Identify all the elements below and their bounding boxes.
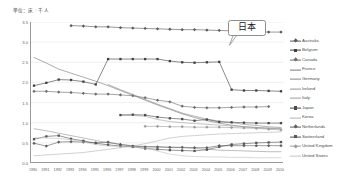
legend-marker-icon	[290, 74, 301, 84]
x-tick-label: 2010	[276, 168, 284, 172]
legend-item-netherlands[interactable]: Netherlands	[290, 122, 358, 132]
legend-marker-icon	[290, 151, 301, 161]
series-switzerland	[33, 134, 282, 152]
x-tick-label: 2006	[226, 168, 234, 172]
x-tick-label: 2009	[264, 168, 272, 172]
legend-marker-icon	[290, 94, 301, 104]
legend-item-australia[interactable]: Australia	[290, 36, 358, 46]
x-tick-label: 1997	[115, 168, 123, 172]
callout-label: 日本	[238, 23, 257, 32]
x-tick-label: 1993	[66, 168, 74, 172]
legend-label: Japan	[301, 106, 314, 110]
legend-label: Italy	[301, 96, 310, 100]
legend-item-ireland[interactable]: Ireland	[290, 84, 358, 94]
legend-item-korea[interactable]: Korea	[290, 113, 358, 123]
x-tick-label: 2003	[189, 168, 197, 172]
y-tick-label: 2.5	[22, 60, 28, 65]
legend-item-switzerland[interactable]: Switzerland	[290, 132, 358, 142]
series-belgium	[33, 58, 282, 93]
legend-item-canada[interactable]: Canada	[290, 55, 358, 65]
legend-marker-icon	[290, 103, 301, 113]
legend-item-united-kingdom[interactable]: United Kingdom	[290, 142, 358, 152]
legend-marker-icon	[290, 113, 301, 123]
unit-label: 単位：床／千人	[13, 7, 49, 13]
legend-marker-icon	[290, 36, 301, 46]
x-tick-label: 1999	[140, 168, 148, 172]
japan-callout: 日本	[228, 20, 266, 39]
legend-label: Netherlands	[301, 125, 325, 129]
x-tick-label: 2004	[202, 168, 210, 172]
x-tick-label: 1996	[103, 168, 111, 172]
legend-marker-icon	[290, 122, 301, 132]
x-tick-label: 2000	[152, 168, 160, 172]
legend-label: Ireland	[301, 87, 315, 91]
legend-marker-icon	[290, 46, 301, 56]
legend-item-germany[interactable]: Germany	[290, 74, 358, 84]
legend-marker-icon	[290, 142, 301, 152]
x-tick-label: 2005	[214, 168, 222, 172]
legend-label: United Kingdom	[301, 144, 333, 148]
chart-screenshot: 単位：床／千人 0.00.51.01.52.02.53.03.5 1990199…	[0, 0, 358, 190]
legend-label: United States	[301, 154, 328, 158]
x-tick-label: 1998	[128, 168, 136, 172]
legend-item-united-states[interactable]: United States	[290, 151, 358, 161]
x-tick-label: 2001	[165, 168, 173, 172]
legend-label: Korea	[301, 115, 313, 119]
legend-label: France	[301, 67, 315, 71]
y-tick-label: 2.0	[22, 80, 28, 85]
y-tick-label: 3.0	[22, 40, 28, 45]
y-axis: 0.00.51.01.52.02.53.03.5	[12, 22, 28, 163]
series-canada	[32, 90, 270, 110]
legend-marker-icon	[290, 65, 301, 75]
callout-box: 日本	[228, 20, 266, 36]
legend-item-italy[interactable]: Italy	[290, 94, 358, 104]
x-tick-label: 1991	[41, 168, 49, 172]
legend-item-france[interactable]: France	[290, 65, 358, 75]
x-tick-label: 1992	[54, 168, 62, 172]
y-tick-label: 3.5	[22, 20, 28, 25]
x-tick-label: 1994	[78, 168, 86, 172]
legend-label: Australia	[301, 39, 319, 43]
x-tick-label: 2007	[239, 168, 247, 172]
chart-legend: AustraliaBelgiumCanadaFranceGermanyIrela…	[290, 36, 358, 161]
x-tick-label: 2002	[177, 168, 185, 172]
legend-marker-icon	[290, 55, 301, 65]
x-axis: 1990199119921993199419951996199719981999…	[30, 168, 283, 180]
y-tick-label: 0.0	[22, 161, 28, 166]
legend-marker-icon	[290, 132, 301, 142]
legend-label: Switzerland	[301, 135, 324, 139]
y-tick-label: 0.5	[22, 140, 28, 145]
legend-item-japan[interactable]: Japan	[290, 103, 358, 113]
y-tick-label: 1.0	[22, 120, 28, 125]
x-tick-label: 1995	[91, 168, 99, 172]
legend-marker-icon	[290, 84, 301, 94]
x-tick-label: 1990	[29, 168, 37, 172]
legend-label: Germany	[301, 77, 320, 81]
legend-label: Canada	[301, 58, 317, 62]
legend-label: Belgium	[301, 48, 318, 52]
legend-item-belgium[interactable]: Belgium	[290, 46, 358, 56]
y-tick-label: 1.5	[22, 100, 28, 105]
x-tick-label: 2008	[251, 168, 259, 172]
